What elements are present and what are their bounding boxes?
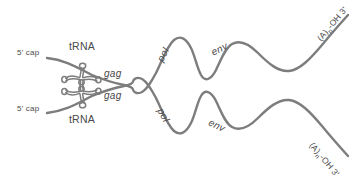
label-gene-gag-top: gag	[104, 69, 122, 79]
label-5prime-cap-top: 5' cap	[17, 49, 39, 57]
label-5prime-cap-bottom: 5' cap	[17, 105, 39, 113]
label-trna-bottom: tRNA	[69, 114, 95, 125]
label-gene-gag-bottom: gag	[104, 91, 122, 101]
label-trna-top: tRNA	[69, 41, 95, 52]
trna-bottom-icon	[62, 80, 101, 108]
diagram-canvas: 5' cap 5' cap tRNA tRNA gag gag pol pol …	[0, 0, 364, 176]
rna-strand-top-path	[47, 15, 348, 93]
trna-top-icon	[62, 63, 101, 91]
rna-backbones	[47, 15, 348, 156]
